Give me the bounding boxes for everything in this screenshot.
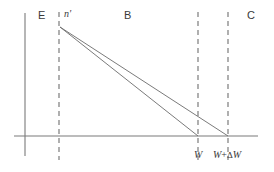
diagram-canvas xyxy=(0,0,274,172)
point-label-n-prime: n' xyxy=(64,9,71,19)
tick-label-w-text: W xyxy=(194,149,202,160)
tick-label-w: W xyxy=(194,150,202,160)
carrier-profile-line-w-plus-dw xyxy=(60,27,228,136)
tick-label-w-suffix: W xyxy=(233,149,241,160)
tick-label-w-plus-delta-w: W+ΔW xyxy=(213,150,241,160)
figure-container: E B C n' W W+ΔW xyxy=(0,0,274,172)
region-label-emitter: E xyxy=(38,10,45,21)
region-label-collector: C xyxy=(247,10,255,21)
carrier-profile-line-w xyxy=(60,27,198,136)
region-label-base: B xyxy=(124,10,131,21)
